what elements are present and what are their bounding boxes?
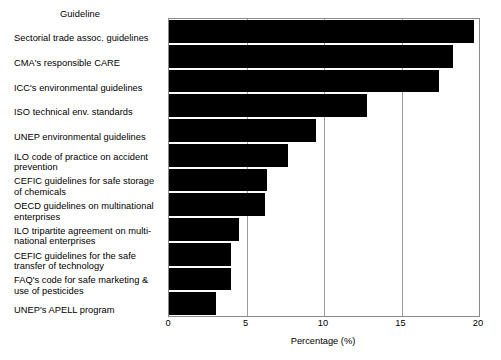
x-tick-label: 0	[165, 318, 170, 329]
category-label: UNEP environmental guidelines	[14, 125, 164, 150]
category-label: CEFIC guidelines for the safetransfer of…	[14, 249, 164, 274]
category-label-line: CEFIC guidelines for the safe	[14, 251, 164, 262]
category-label-line: FAQ's code for safe marketing &	[14, 275, 164, 286]
bar	[169, 144, 288, 167]
category-label: CMA's responsible CARE	[14, 51, 164, 76]
category-label-line: Sectorial trade assoc. guidelines	[14, 33, 164, 44]
bar-slot	[169, 291, 479, 316]
category-label-column: Guideline Sectorial trade assoc. guideli…	[0, 0, 164, 360]
category-label-line: of chemicals	[14, 187, 164, 198]
category-label-line: use of pesticides	[14, 286, 164, 297]
x-tick-label: 5	[243, 318, 248, 329]
plot-area	[168, 18, 480, 317]
category-label: FAQ's code for safe marketing &use of pe…	[14, 274, 164, 299]
category-label: UNEP's APELL program	[14, 298, 164, 323]
category-label: ICC's environmental guidelines	[14, 76, 164, 101]
category-label: ILO code of practice on accidentpreventi…	[14, 150, 164, 175]
x-axis-tick-labels: 05101520	[168, 318, 478, 332]
bar	[169, 218, 239, 241]
category-label-line: prevention	[14, 162, 164, 173]
category-label-line: OECD guidelines on multinational	[14, 201, 164, 212]
category-label-line: transfer of technology	[14, 261, 164, 272]
bar	[169, 169, 267, 192]
x-tick-label: 20	[473, 318, 483, 329]
category-label-line: UNEP environmental guidelines	[14, 132, 164, 143]
x-tick-label: 15	[395, 318, 405, 329]
category-label: ILO tripartite agreement on multi-nation…	[14, 224, 164, 249]
bar-slot	[169, 19, 479, 44]
category-label-line: UNEP's APELL program	[14, 305, 164, 316]
y-axis-title: Guideline	[0, 9, 160, 20]
horizontal-bar-chart: Guideline Sectorial trade assoc. guideli…	[0, 0, 501, 360]
category-label-line: enterprises	[14, 212, 164, 223]
category-label: ISO technical env. standards	[14, 100, 164, 125]
category-label-line: ISO technical env. standards	[14, 107, 164, 118]
bar	[169, 119, 316, 142]
category-label: OECD guidelines on multinationalenterpri…	[14, 199, 164, 224]
bar-slot	[169, 192, 479, 217]
bar-slot	[169, 168, 479, 193]
category-label-line: ICC's environmental guidelines	[14, 83, 164, 94]
category-label-line: ILO tripartite agreement on multi-	[14, 226, 164, 237]
bar-slot	[169, 93, 479, 118]
x-axis-title: Percentage (%)	[168, 336, 478, 347]
bar	[169, 94, 367, 117]
bar	[169, 268, 231, 291]
bar-slot	[169, 267, 479, 292]
category-label-line: CMA's responsible CARE	[14, 58, 164, 69]
bar	[169, 243, 231, 266]
bar-series	[169, 19, 479, 316]
x-tick-label: 10	[318, 318, 328, 329]
category-label: Sectorial trade assoc. guidelines	[14, 26, 164, 51]
bar-slot	[169, 217, 479, 242]
category-label-line: ILO code of practice on accident	[14, 152, 164, 163]
bar	[169, 45, 453, 68]
category-label: CEFIC guidelines for safe storageof chem…	[14, 175, 164, 200]
bar-slot	[169, 118, 479, 143]
bar-slot	[169, 143, 479, 168]
bar-slot	[169, 242, 479, 267]
bar	[169, 20, 474, 43]
category-label-line: national enterprises	[14, 236, 164, 247]
bar	[169, 292, 216, 315]
bar-slot	[169, 69, 479, 94]
bar	[169, 70, 439, 93]
category-label-list: Sectorial trade assoc. guidelinesCMA's r…	[14, 26, 164, 323]
bar-slot	[169, 44, 479, 69]
category-label-line: CEFIC guidelines for safe storage	[14, 176, 164, 187]
bar	[169, 193, 265, 216]
